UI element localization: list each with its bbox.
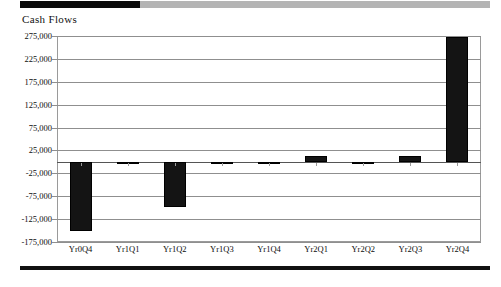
gridline	[57, 242, 481, 243]
bar	[399, 156, 421, 161]
gridline	[57, 219, 481, 220]
x-axis-tick	[269, 163, 270, 166]
gridline	[57, 59, 481, 60]
bottom-decorative-rule	[20, 266, 490, 270]
y-axis-tick-label: 25,000	[0, 145, 52, 155]
y-axis-tick	[52, 219, 57, 220]
x-axis-labels: Yr0Q4Yr1Q1Yr1Q2Yr1Q3Yr1Q4Yr2Q1Yr2Q2Yr2Q3…	[57, 244, 481, 258]
y-axis-tick	[52, 242, 57, 243]
x-axis-tick	[457, 163, 458, 166]
gridline	[57, 105, 481, 106]
bar	[305, 156, 327, 162]
y-axis-tick	[52, 59, 57, 60]
gridline	[57, 150, 481, 151]
y-axis-tick	[52, 82, 57, 83]
x-axis-tick	[222, 163, 223, 166]
y-axis-tick	[52, 128, 57, 129]
y-axis-tick	[52, 196, 57, 197]
y-axis-tick	[52, 105, 57, 106]
y-axis-tick-label: 75,000	[0, 123, 52, 133]
y-axis-tick	[52, 173, 57, 174]
gridline	[57, 173, 481, 174]
x-axis-tick	[410, 163, 411, 166]
x-axis-tick	[175, 163, 176, 166]
gridline	[57, 82, 481, 83]
x-axis-tick-label: Yr1Q2	[163, 244, 187, 254]
y-axis-labels: 275,000225,000175,000125,00075,00025,000…	[0, 36, 52, 242]
y-axis-tick-label: -25,000	[0, 168, 52, 178]
x-axis-tick-label: Yr2Q4	[446, 244, 470, 254]
y-axis-tick-label: -175,000	[0, 237, 52, 247]
y-axis-tick-label: -75,000	[0, 191, 52, 201]
chart-plot-area	[57, 36, 481, 242]
x-axis-tick-label: Yr2Q2	[351, 244, 375, 254]
x-axis-tick-label: Yr2Q3	[399, 244, 423, 254]
chart-title: Cash Flows	[22, 13, 77, 25]
x-axis-tick-label: Yr1Q4	[257, 244, 281, 254]
y-axis-tick	[52, 150, 57, 151]
plot-frame	[57, 36, 481, 242]
y-axis-tick	[52, 36, 57, 37]
x-axis-tick	[316, 163, 317, 166]
gridline	[57, 196, 481, 197]
y-axis-tick-label: 125,000	[0, 100, 52, 110]
top-rule-black-segment	[20, 1, 140, 8]
bar	[164, 162, 186, 207]
y-axis-tick-label: 225,000	[0, 54, 52, 64]
x-axis-tick-label: Yr1Q1	[116, 244, 140, 254]
y-axis-tick-label: 175,000	[0, 77, 52, 87]
top-rule-gray-segment	[140, 1, 490, 8]
x-axis-tick-label: Yr0Q4	[69, 244, 93, 254]
x-axis-tick	[81, 163, 82, 166]
y-axis-tick-label: 275,000	[0, 31, 52, 41]
gridline	[57, 36, 481, 37]
gridline	[57, 128, 481, 129]
y-axis-tick-label: -125,000	[0, 214, 52, 224]
bar	[446, 37, 468, 162]
top-decorative-rule	[20, 1, 490, 8]
x-axis-tick-label: Yr2Q1	[304, 244, 328, 254]
bar	[70, 162, 92, 231]
x-axis-tick	[128, 163, 129, 166]
x-axis-tick	[363, 163, 364, 166]
x-axis-tick-label: Yr1Q3	[210, 244, 234, 254]
